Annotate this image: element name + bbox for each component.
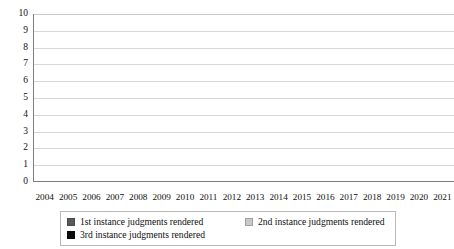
y-axis-tick-label: 10 <box>19 9 29 19</box>
y-axis-tick-label: 8 <box>23 43 28 53</box>
x-axis-tick-label: 2017 <box>337 190 360 204</box>
bar-slot <box>127 14 150 181</box>
x-axis-tick-label: 2015 <box>290 190 313 204</box>
bar-slot <box>220 14 243 181</box>
y-axis-tick-label: 1 <box>23 160 28 170</box>
bar-slot <box>56 14 79 181</box>
legend-item-label: 1st instance judgments rendered <box>80 215 203 228</box>
bar-slot <box>314 14 337 181</box>
legend-item-2nd-instance: 2nd instance judgments rendered <box>245 215 385 228</box>
x-axis-tick-label: 2016 <box>314 190 337 204</box>
legend-item-3rd-instance: 3rd instance judgments rendered <box>67 228 245 241</box>
x-axis-tick-label: 2008 <box>127 190 150 204</box>
x-axis-tick-label: 2020 <box>407 190 430 204</box>
bar-slot <box>103 14 126 181</box>
y-axis-tick-label: 4 <box>23 110 28 120</box>
x-axis-tick-label: 2005 <box>56 190 79 204</box>
y-axis: 012345678910 <box>0 14 32 182</box>
plot-region: 012345678910 <box>0 14 454 190</box>
bar-slot <box>267 14 290 181</box>
bar-slot <box>290 14 313 181</box>
bar-slot <box>150 14 173 181</box>
bar-slot <box>197 14 220 181</box>
bar-slot <box>431 14 454 181</box>
legend-item-1st-instance: 1st instance judgments rendered <box>67 215 245 228</box>
x-axis-tick-label: 2004 <box>33 190 56 204</box>
x-axis-line <box>33 181 454 182</box>
legend-swatch-icon <box>245 218 253 226</box>
bars-layer <box>33 14 454 181</box>
chart-legend: 1st instance judgments rendered 2nd inst… <box>60 211 396 246</box>
bar-slot <box>173 14 196 181</box>
x-axis-tick-label: 2013 <box>244 190 267 204</box>
legend-item-label: 2nd instance judgments rendered <box>258 215 385 228</box>
bar-chart-figure: 012345678910 200420052006200720082009201… <box>0 0 454 249</box>
bar-slot <box>384 14 407 181</box>
x-axis-tick-label: 2018 <box>360 190 383 204</box>
bar-slot <box>337 14 360 181</box>
x-axis-tick-label: 2012 <box>220 190 243 204</box>
y-axis-tick-label: 9 <box>23 26 28 36</box>
y-axis-tick-label: 2 <box>23 144 28 154</box>
legend-swatch-icon <box>67 231 75 239</box>
x-axis-tick-label: 2021 <box>431 190 454 204</box>
y-axis-tick-label: 0 <box>23 177 28 187</box>
x-axis: 2004200520062007200820092010201120122013… <box>33 190 454 204</box>
x-axis-tick-label: 2019 <box>384 190 407 204</box>
legend-row: 1st instance judgments rendered 2nd inst… <box>67 215 389 228</box>
legend-item-label: 3rd instance judgments rendered <box>80 228 205 241</box>
bar-slot <box>407 14 430 181</box>
bar-slot <box>80 14 103 181</box>
legend-row: 3rd instance judgments rendered <box>67 228 389 241</box>
x-axis-tick-label: 2010 <box>173 190 196 204</box>
plot-area <box>33 14 454 182</box>
x-axis-tick-label: 2007 <box>103 190 126 204</box>
bar-slot <box>33 14 56 181</box>
y-axis-tick-label: 6 <box>23 76 28 86</box>
y-axis-tick-label: 3 <box>23 127 28 137</box>
bar-slot <box>360 14 383 181</box>
y-axis-tick-label: 7 <box>23 60 28 70</box>
x-axis-tick-label: 2009 <box>150 190 173 204</box>
y-axis-tick-label: 5 <box>23 93 28 103</box>
x-axis-tick-label: 2011 <box>197 190 220 204</box>
x-axis-tick-label: 2006 <box>80 190 103 204</box>
bar-slot <box>244 14 267 181</box>
legend-swatch-icon <box>67 218 75 226</box>
x-axis-tick-label: 2014 <box>267 190 290 204</box>
